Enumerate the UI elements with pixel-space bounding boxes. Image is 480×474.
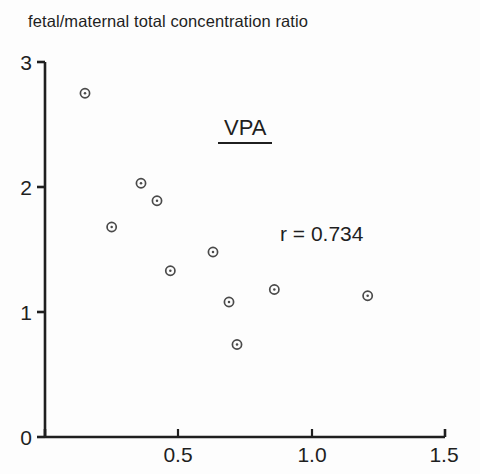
data-point-center-dot [169,270,172,273]
data-point-center-dot [366,295,369,298]
data-point-group [80,89,372,349]
plot-area [0,0,480,474]
data-point-center-dot [84,92,87,95]
data-point-center-dot [212,251,215,254]
data-point-center-dot [236,343,239,346]
data-point-center-dot [156,200,159,203]
data-point-center-dot [110,226,113,229]
scatter-plot-figure: fetal/maternal total concentration ratio… [0,0,480,474]
data-point-center-dot [140,182,143,185]
data-point-center-dot [228,301,231,304]
data-point-center-dot [273,288,276,291]
